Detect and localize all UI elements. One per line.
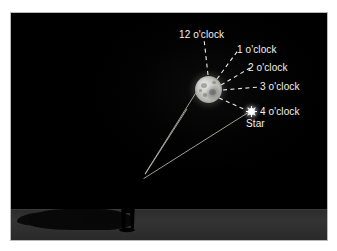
ray-3-oclock	[223, 87, 259, 90]
moon-crater	[201, 83, 207, 88]
observer-foot-shadow	[119, 228, 135, 232]
ray-1-oclock	[217, 49, 239, 79]
sightline-to-star	[143, 112, 249, 179]
label-star: Star	[246, 118, 265, 129]
star-core	[248, 108, 255, 115]
sightline-arm-upper	[144, 109, 187, 176]
ray-12-oclock	[204, 39, 208, 75]
illustration-figure: 12 o'clock 1 o'clock 2 o'clock 3 o'clock…	[11, 13, 327, 240]
moon-crater	[209, 89, 216, 95]
moon-crater	[199, 89, 202, 92]
ray-2-oclock	[221, 68, 250, 85]
star-icon	[246, 106, 257, 117]
label-1-oclock: 1 o'clock	[237, 44, 277, 55]
observer-head	[123, 170, 133, 180]
label-4-oclock: 4 o'clock	[260, 106, 300, 117]
label-12-oclock: 12 o'clock	[179, 29, 224, 40]
moon	[195, 76, 222, 103]
ray-4-oclock	[219, 98, 246, 110]
moon-crater	[203, 93, 207, 97]
observer-silhouette	[119, 170, 146, 232]
sightline-to-moon	[143, 91, 197, 177]
label-3-oclock: 3 o'clock	[260, 81, 300, 92]
label-2-oclock: 2 o'clock	[248, 62, 288, 73]
scene-vector-layer	[11, 13, 327, 240]
moon-crater	[212, 81, 216, 84]
